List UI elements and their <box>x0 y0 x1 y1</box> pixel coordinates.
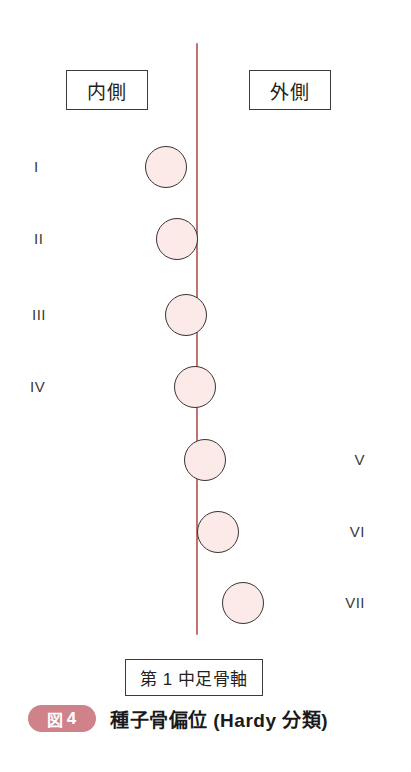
sesamoid-circle-v <box>184 439 226 481</box>
sesamoid-circle-i <box>145 146 187 188</box>
figure-number-badge: 図 4 <box>28 705 96 732</box>
axis-caption-label: 第 1 中足骨軸 <box>140 665 248 690</box>
grade-label-vi: VI <box>325 523 365 540</box>
figure-container: 内側 外側 IIIIIIIVVVIVII 第 1 中足骨軸 図 4 種子骨偏位 … <box>0 0 411 772</box>
sesamoid-circle-iii <box>165 294 207 336</box>
figure-badge-word: 図 <box>47 707 64 731</box>
lateral-side-label: 外側 <box>270 77 310 104</box>
grade-label-vii: VII <box>325 594 365 611</box>
sesamoid-circle-ii <box>156 218 198 260</box>
grade-label-ii: II <box>34 230 43 247</box>
sesamoid-circle-vi <box>197 511 239 553</box>
grade-label-v: V <box>325 451 365 468</box>
axis-caption-box: 第 1 中足骨軸 <box>125 659 263 696</box>
metatarsal-axis-line <box>196 43 198 635</box>
medial-side-label: 内側 <box>87 77 127 104</box>
lateral-side-box: 外側 <box>249 70 331 110</box>
figure-badge-number: 4 <box>67 709 77 729</box>
grade-label-iv: IV <box>30 378 45 395</box>
sesamoid-circle-vii <box>222 582 264 624</box>
grade-label-i: I <box>34 158 39 175</box>
grade-label-iii: III <box>32 306 46 323</box>
medial-side-box: 内側 <box>66 70 148 110</box>
sesamoid-circle-iv <box>174 366 216 408</box>
figure-caption-row: 図 4 種子骨偏位 (Hardy 分類) <box>28 705 328 732</box>
figure-caption-title: 種子骨偏位 (Hardy 分類) <box>110 705 328 732</box>
